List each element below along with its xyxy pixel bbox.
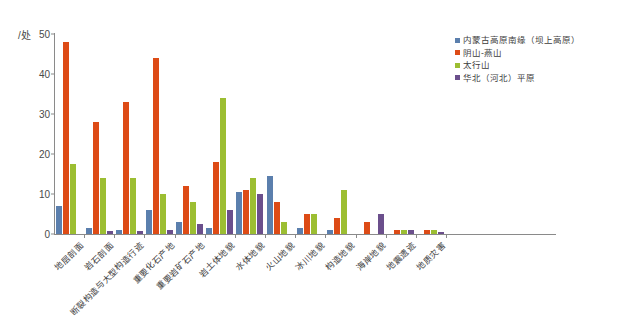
bar <box>227 210 233 234</box>
bar-group <box>386 34 416 234</box>
bar <box>378 214 384 234</box>
bar <box>267 176 273 234</box>
bar <box>100 178 106 234</box>
legend-swatch-icon <box>455 50 460 55</box>
bar <box>304 214 310 234</box>
bar <box>424 230 430 234</box>
plot-area <box>54 34 446 234</box>
bar <box>257 194 263 234</box>
x-tick-mark <box>356 234 357 238</box>
bar <box>197 224 203 234</box>
bar <box>236 192 242 234</box>
legend-swatch-icon <box>455 75 460 80</box>
bar-group <box>114 34 144 234</box>
bar <box>86 228 92 234</box>
bar <box>93 122 99 234</box>
bar <box>274 202 280 234</box>
legend-label: 阴山-燕山 <box>463 49 502 58</box>
x-tick-mark <box>265 234 266 238</box>
chart-legend: 内蒙古高原南缘（坝上高原）阴山-燕山太行山华北（河北）平原 <box>455 36 615 86</box>
y-tick-label: 50 <box>39 29 50 40</box>
bar-group <box>54 34 84 234</box>
bar-group <box>235 34 265 234</box>
x-tick-label: 地震遗迹 <box>385 241 416 272</box>
x-tick-mark <box>114 234 115 238</box>
bar <box>167 230 173 234</box>
bar <box>431 230 437 234</box>
x-tick-mark <box>84 234 85 238</box>
y-tick-label: 40 <box>39 69 50 80</box>
bar <box>311 214 317 234</box>
y-axis-unit-label: /处 <box>18 27 31 42</box>
bar <box>327 230 333 234</box>
x-tick-label: 地层剖面 <box>54 241 85 272</box>
bar <box>123 102 129 234</box>
x-tick-label: 构造地貌 <box>325 241 356 272</box>
bar <box>341 190 347 234</box>
x-tick-label: 火山地貌 <box>265 241 296 272</box>
bar <box>63 42 69 234</box>
legend-item[interactable]: 太行山 <box>455 61 615 70</box>
x-tick-mark <box>205 234 206 238</box>
legend-label: 内蒙古高原南缘（坝上高原） <box>463 36 580 45</box>
bar-chart: /处 01020304050 地层剖面岩石剖面断裂构造与大型构造行迹重要化石产地… <box>0 0 621 332</box>
x-tick-label: 冰川地貌 <box>295 241 326 272</box>
y-tick-label: 20 <box>39 149 50 160</box>
bar <box>130 178 136 234</box>
x-tick-label: 水体地貌 <box>235 241 266 272</box>
bar <box>297 228 303 234</box>
legend-label: 太行山 <box>463 61 490 70</box>
bar <box>56 206 62 234</box>
legend-swatch-icon <box>455 38 460 43</box>
y-tick-label: 0 <box>44 229 50 240</box>
bar <box>153 58 159 234</box>
bar <box>220 98 226 234</box>
x-tick-mark <box>416 234 417 238</box>
bar <box>394 230 400 234</box>
bar-group <box>265 34 295 234</box>
x-axis-line <box>54 234 556 235</box>
bar <box>116 230 122 234</box>
x-tick-mark <box>144 234 145 238</box>
bar <box>70 164 76 234</box>
bar-group <box>295 34 325 234</box>
x-tick-mark <box>386 234 387 238</box>
bar <box>183 186 189 234</box>
bar <box>438 232 444 234</box>
bar-group <box>175 34 205 234</box>
x-tick-mark <box>295 234 296 238</box>
bar <box>176 222 182 234</box>
x-tick-mark <box>175 234 176 238</box>
bar-group <box>84 34 114 234</box>
legend-item[interactable]: 阴山-燕山 <box>455 49 615 58</box>
bar-group <box>356 34 386 234</box>
bar-group <box>325 34 355 234</box>
legend-label: 华北（河北）平原 <box>463 74 535 83</box>
bar <box>334 218 340 234</box>
bar <box>364 222 370 234</box>
x-tick-mark <box>446 234 447 238</box>
legend-swatch-icon <box>455 63 460 68</box>
bar <box>213 162 219 234</box>
legend-item[interactable]: 华北（河北）平原 <box>455 74 615 83</box>
y-tick-label: 10 <box>39 189 50 200</box>
bar <box>206 228 212 234</box>
bar-group <box>416 34 446 234</box>
bar <box>281 222 287 234</box>
legend-item[interactable]: 内蒙古高原南缘（坝上高原） <box>455 36 615 45</box>
x-tick-label: 地质灾害 <box>415 241 446 272</box>
bar-group <box>144 34 174 234</box>
bar <box>243 190 249 234</box>
bar <box>160 194 166 234</box>
bar <box>107 231 113 234</box>
x-tick-mark <box>325 234 326 238</box>
x-tick-label: 海岸地貌 <box>355 241 386 272</box>
x-tick-mark <box>235 234 236 238</box>
y-tick-label: 30 <box>39 109 50 120</box>
bar <box>401 230 407 234</box>
bar <box>250 178 256 234</box>
bar-group <box>205 34 235 234</box>
bar <box>146 210 152 234</box>
bar <box>190 202 196 234</box>
bar <box>408 230 414 234</box>
